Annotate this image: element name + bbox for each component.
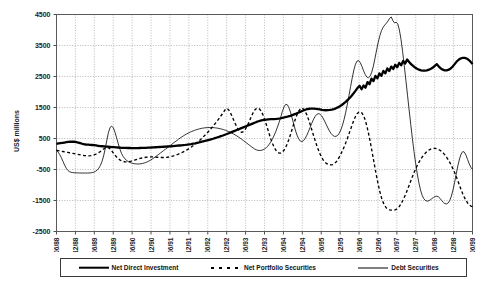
x-tick-label: 12/88 (72, 237, 79, 252)
x-tick-label: 12/94 (299, 237, 306, 252)
legend-label: Net Direct Investment (112, 264, 179, 271)
legend-label: Net Portfolio Securities (244, 264, 316, 271)
x-tick-label: 12/90 (148, 237, 155, 252)
chart-legend: Net Direct Investment Net Portfolio Secu… (60, 258, 467, 277)
y-tick-label: 4500 (35, 11, 51, 18)
legend-label: Debt Securities (391, 264, 438, 271)
x-gridlines (75, 15, 453, 232)
x-tick-label: 06/88 (53, 237, 60, 252)
legend-item-net-direct-investment: Net Direct Investment (61, 264, 196, 272)
x-tick-label: 06/91 (167, 237, 174, 252)
legend-item-debt-securities: Debt Securities (331, 264, 466, 272)
chart-page: US$ millions 4500350025001500500-500-150… (0, 0, 493, 284)
x-tick-label: 06/94 (280, 237, 287, 252)
y-tick-label: -2500 (33, 228, 51, 235)
y-tick-label: -1500 (33, 197, 51, 204)
x-tick-labels: 06/8812/8806/8912/8906/9012/9006/9112/91… (53, 237, 476, 252)
y-tick-label: -500 (36, 166, 50, 173)
x-tick-label: 06/95 (318, 237, 325, 252)
legend-swatch-thick-solid-icon (79, 264, 109, 272)
x-tick-label: 06/96 (356, 237, 363, 252)
x-tick-label: 06/90 (129, 237, 136, 252)
chart-figure: US$ millions 4500350025001500500-500-150… (0, 0, 493, 252)
y-tick-labels: 4500350025001500500-500-1500-2500 (33, 11, 51, 235)
x-tick-label: 12/91 (185, 237, 192, 252)
y-tick-label: 1500 (35, 104, 51, 111)
x-tick-label: 06/93 (242, 237, 249, 252)
x-tick-label: 06/99 (469, 237, 476, 252)
x-tick-label: 12/93 (261, 237, 268, 252)
x-tick-label: 06/97 (393, 237, 400, 252)
x-tick-label: 06/92 (204, 237, 211, 252)
y-tick-label: 500 (39, 135, 51, 142)
x-tick-label: 06/89 (91, 237, 98, 252)
plot-area-border (57, 15, 473, 232)
x-tick-label: 06/98 (431, 237, 438, 252)
x-tick-label: 12/96 (375, 237, 382, 252)
x-tick-label: 12/98 (450, 237, 457, 252)
legend-swatch-thin-solid-icon (358, 264, 388, 272)
x-tick-label: 12/89 (110, 237, 117, 252)
y-tick-label: 3500 (35, 42, 51, 49)
legend-swatch-dashed-icon (211, 264, 241, 272)
x-tick-label: 12/97 (412, 237, 419, 252)
y-tick-label: 2500 (35, 73, 51, 80)
series-line-net-portfolio-securities (57, 108, 473, 210)
legend-item-net-portfolio-securities: Net Portfolio Securities (196, 264, 331, 272)
y-axis-title: US$ millions (10, 96, 24, 166)
y-gridlines (57, 46, 473, 201)
x-tick-label: 12/95 (337, 237, 344, 252)
chart-canvas: 4500350025001500500-500-1500-2500 06/881… (0, 0, 493, 252)
x-tick-label: 12/92 (223, 237, 230, 252)
